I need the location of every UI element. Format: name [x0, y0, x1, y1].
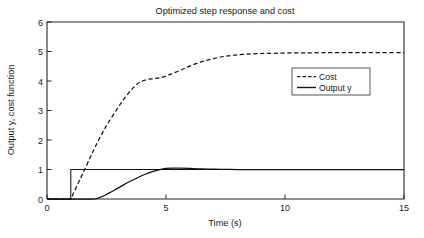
- legend-label-output-y: Output y: [319, 83, 352, 93]
- series-step-reference: [47, 170, 404, 200]
- chart-title: Optimized step response and cost: [156, 6, 295, 16]
- x-tick-label: 15: [399, 203, 409, 213]
- y-tick-label: 0: [38, 195, 43, 205]
- y-tick-label: 6: [38, 18, 43, 28]
- y-tick-label: 3: [38, 106, 43, 116]
- axis-frame: [47, 22, 404, 199]
- y-tick-labels: 0 1 2 3 4 5 6: [38, 18, 43, 205]
- series-output-y: [47, 168, 404, 199]
- y-tick-label: 2: [38, 136, 43, 146]
- legend[interactable]: Cost Output y: [292, 68, 370, 95]
- chart-canvas: Optimized step response and cost 0 1 2 3…: [0, 0, 424, 238]
- y-tick-label: 5: [38, 47, 43, 57]
- figure-container: Optimized step response and cost 0 1 2 3…: [0, 0, 424, 238]
- x-tick-label: 5: [163, 203, 168, 213]
- x-tick-label: 10: [280, 203, 290, 213]
- y-axis-label: Output y, cost function: [6, 65, 16, 156]
- y-tick-label: 4: [38, 77, 43, 87]
- x-axis-label: Time (s): [208, 218, 241, 228]
- x-tick-labels: 0 5 10 15: [44, 203, 409, 213]
- y-tick-marks: [47, 22, 52, 199]
- legend-label-cost: Cost: [319, 72, 337, 82]
- x-tick-label: 0: [44, 203, 49, 213]
- y-tick-label: 1: [38, 165, 43, 175]
- plot-axes: [47, 22, 404, 199]
